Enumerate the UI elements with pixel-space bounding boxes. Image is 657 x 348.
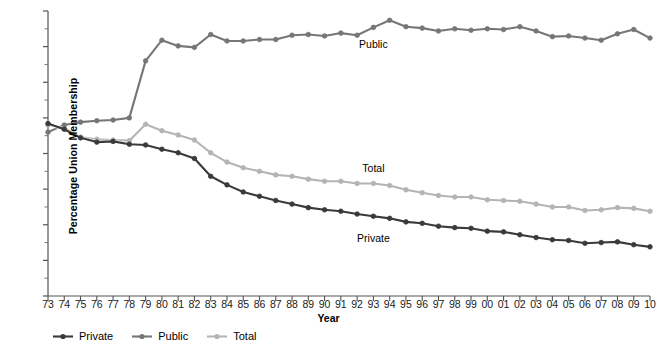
series-annotation-private: Private — [357, 232, 390, 244]
data-point — [339, 179, 344, 184]
x-tick-label: 86 — [254, 298, 266, 310]
data-point — [355, 212, 360, 217]
x-tick-label: 99 — [465, 298, 477, 310]
data-point — [208, 174, 213, 179]
series-annotation-public: Public — [359, 38, 388, 50]
data-point — [322, 207, 327, 212]
data-point — [176, 150, 181, 155]
chart-axes — [43, 11, 650, 301]
data-point — [452, 225, 457, 230]
data-point — [566, 238, 571, 243]
data-point — [273, 173, 278, 178]
data-point — [95, 140, 100, 145]
data-point — [143, 143, 148, 148]
data-point — [501, 27, 506, 32]
data-point — [290, 33, 295, 38]
legend-item-total[interactable]: Total — [206, 330, 256, 342]
data-point — [534, 202, 539, 207]
data-point — [583, 36, 588, 41]
chart-container: Percentage Union Membership 051015202530… — [0, 0, 657, 348]
data-point — [192, 156, 197, 161]
data-point — [192, 138, 197, 143]
data-point — [615, 205, 620, 210]
data-point — [518, 199, 523, 204]
data-point — [615, 240, 620, 245]
x-tick-label: 77 — [107, 298, 119, 310]
data-point — [371, 214, 376, 219]
x-tick-label: 98 — [449, 298, 461, 310]
data-point — [127, 116, 132, 121]
data-point — [485, 27, 490, 32]
x-tick-label: 00 — [481, 298, 493, 310]
data-point — [631, 242, 636, 247]
data-point — [452, 27, 457, 32]
x-tick-label: 02 — [514, 298, 526, 310]
data-point — [387, 18, 392, 23]
data-point — [550, 237, 555, 242]
x-tick-label: 06 — [579, 298, 591, 310]
data-point — [583, 208, 588, 213]
data-point — [241, 165, 246, 170]
data-point — [371, 25, 376, 30]
data-point — [534, 235, 539, 240]
x-tick-label: 78 — [124, 298, 136, 310]
x-tick-label: 95 — [400, 298, 412, 310]
data-point — [208, 32, 213, 37]
x-tick-label: 89 — [302, 298, 314, 310]
data-point — [420, 190, 425, 195]
data-point — [306, 177, 311, 182]
data-point — [257, 37, 262, 42]
x-tick-label: 03 — [530, 298, 542, 310]
legend-marker-icon — [52, 332, 74, 341]
x-tick-label: 94 — [384, 298, 396, 310]
legend-label: Public — [158, 330, 188, 342]
data-point — [518, 24, 523, 29]
x-axis-title: Year — [0, 312, 657, 324]
data-point — [111, 118, 116, 123]
x-tick-label: 80 — [156, 298, 168, 310]
x-tick-label: 76 — [91, 298, 103, 310]
x-tick-label: 84 — [221, 298, 233, 310]
x-tick-label: 91 — [335, 298, 347, 310]
data-point — [648, 245, 653, 250]
data-point — [436, 193, 441, 198]
y-axis-title: Percentage Union Membership — [67, 78, 79, 235]
data-point — [371, 181, 376, 186]
data-point — [501, 198, 506, 203]
data-point — [95, 118, 100, 123]
data-point — [160, 38, 165, 43]
data-point — [241, 190, 246, 195]
data-point — [648, 36, 653, 41]
data-point — [111, 139, 116, 144]
cropped-title-artifact — [0, 0, 657, 5]
series-total — [46, 122, 653, 214]
data-point — [176, 44, 181, 49]
x-tick-label: 04 — [547, 298, 559, 310]
x-tick-label: 85 — [237, 298, 249, 310]
data-point — [257, 194, 262, 199]
data-point — [160, 147, 165, 152]
series-private — [46, 121, 653, 249]
data-point — [583, 241, 588, 246]
data-point — [225, 160, 230, 165]
data-point — [469, 226, 474, 231]
data-point — [241, 39, 246, 44]
chart-legend: PrivatePublicTotal — [52, 330, 256, 342]
x-tick-label: 82 — [189, 298, 201, 310]
data-point — [339, 31, 344, 36]
x-tick-label: 79 — [140, 298, 152, 310]
data-point — [339, 209, 344, 214]
data-point — [566, 205, 571, 210]
legend-item-public[interactable]: Public — [131, 330, 188, 342]
data-point — [143, 59, 148, 64]
x-tick-label: 96 — [416, 298, 428, 310]
data-point — [648, 209, 653, 214]
data-point — [599, 207, 604, 212]
data-point — [615, 32, 620, 37]
data-point — [273, 198, 278, 203]
x-tick-label: 90 — [319, 298, 331, 310]
x-tick-label: 87 — [270, 298, 282, 310]
legend-item-private[interactable]: Private — [52, 330, 113, 342]
data-point — [599, 240, 604, 245]
x-tick-label: 74 — [58, 298, 70, 310]
